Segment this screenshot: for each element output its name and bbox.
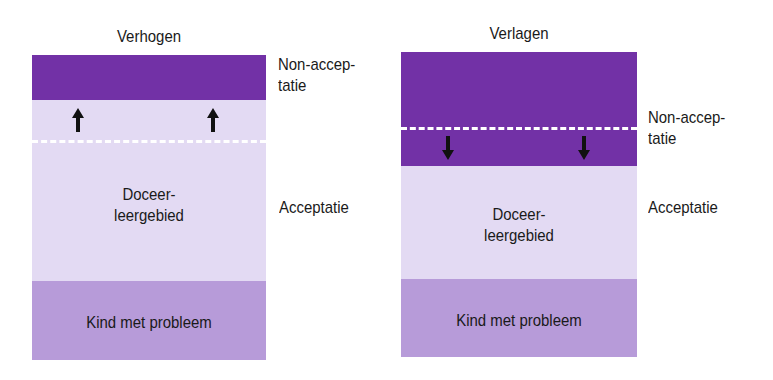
right-non-acceptance-label: Non-accep- tatie: [648, 107, 725, 149]
left-panel-title: Verhogen: [46, 27, 252, 47]
teaching-area-label-line1: Doceer-: [46, 184, 252, 205]
teaching-area-label-line2: leergebied: [415, 225, 623, 246]
left-non-acceptance-label: Non-accep- tatie: [278, 54, 355, 96]
boundary-dashed-line: [32, 140, 266, 143]
problem-label: Kind met probleem: [46, 312, 252, 333]
left-panel-diagram: Doceer- leergebied Kind met probleem: [32, 55, 266, 360]
teaching-area-label: Doceer- leergebied: [46, 184, 252, 226]
arrow-down-icon: [577, 136, 591, 160]
left-acceptance-label: Acceptatie: [279, 197, 349, 218]
non-acceptance-zone: [32, 55, 266, 100]
non-acceptance-label-line1: Non-accep-: [278, 54, 355, 75]
teaching-area-label-line2: leergebied: [46, 205, 252, 226]
non-acceptance-zone: [401, 52, 637, 166]
teaching-area-label-line1: Doceer-: [415, 204, 623, 225]
problem-label: Kind met probleem: [415, 310, 623, 331]
right-panel-diagram: Doceer- leergebied Kind met probleem: [401, 52, 637, 357]
right-panel-title: Verlagen: [415, 24, 623, 44]
boundary-dashed-line: [401, 127, 637, 130]
non-acceptance-label-line2: tatie: [278, 75, 355, 96]
right-acceptance-label: Acceptatie: [648, 197, 718, 218]
arrow-up-icon: [71, 108, 85, 132]
arrow-up-icon: [206, 108, 220, 132]
non-acceptance-label-line2: tatie: [648, 128, 725, 149]
arrow-down-icon: [441, 136, 455, 160]
non-acceptance-label-line1: Non-accep-: [648, 107, 725, 128]
teaching-area-label: Doceer- leergebied: [415, 204, 623, 246]
